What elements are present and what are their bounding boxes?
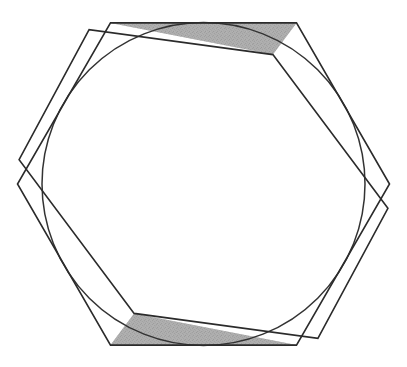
figure-root: Hexagonal band with inscribed circle Two… <box>0 0 407 367</box>
hexagon-band <box>0 0 407 367</box>
geometry-canvas <box>0 0 407 367</box>
band-noise-texture <box>0 0 407 367</box>
